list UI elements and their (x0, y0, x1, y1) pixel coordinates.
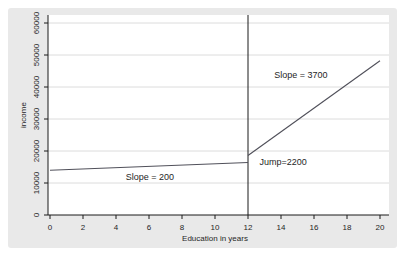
x-tick-label: 4 (114, 223, 119, 232)
y-tick-label: 30000 (32, 107, 41, 130)
x-tick-label: 2 (81, 223, 86, 232)
y-tick-label: 50000 (32, 43, 41, 66)
x-tick-label: 10 (211, 223, 220, 232)
y-tick-label: 40000 (32, 75, 41, 98)
x-tick-label: 12 (244, 223, 253, 232)
x-axis-title: Education in years (182, 234, 248, 243)
jump-label: Jump=2200 (260, 157, 307, 167)
y-axis-title: income (19, 102, 28, 128)
x-tick-label: 6 (147, 223, 152, 232)
slope-right-label: Slope = 3700 (274, 70, 327, 80)
plot-region (48, 15, 389, 215)
y-tick-label: 60000 (32, 11, 41, 34)
y-tick-label: 0 (32, 212, 41, 217)
x-tick-label: 8 (180, 223, 185, 232)
income-education-rd-chart: 0100002000030000400005000060000024681012… (0, 0, 407, 266)
x-tick-label: 14 (277, 223, 286, 232)
x-tick-label: 0 (48, 223, 53, 232)
x-tick-label: 16 (310, 223, 319, 232)
y-tick-label: 20000 (32, 139, 41, 162)
stata-graph-window: 0100002000030000400005000060000024681012… (0, 0, 407, 266)
slope-left-label: Slope = 200 (126, 172, 174, 182)
x-tick-label: 18 (343, 223, 352, 232)
x-tick-label: 20 (376, 223, 385, 232)
y-tick-label: 10000 (32, 171, 41, 194)
